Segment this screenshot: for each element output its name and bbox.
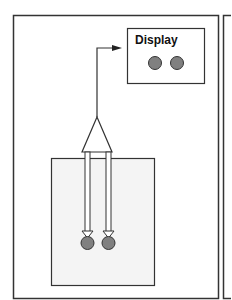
diagram-canvas: Display: [0, 0, 231, 300]
adjacent-frame: [224, 16, 232, 299]
probe-dot: [102, 237, 115, 250]
probe-dot: [81, 237, 94, 250]
display-indicator-dot: [149, 57, 162, 70]
arrowhead-icon: [112, 45, 122, 51]
signal-arrow: [97, 45, 122, 117]
display-label: Display: [135, 33, 178, 47]
probe-shaft: [106, 152, 111, 232]
signal-line: [97, 48, 114, 117]
sample-box: [52, 159, 155, 286]
display-panel: Display: [128, 29, 205, 84]
display-indicator-dot: [171, 57, 184, 70]
probe-shaft: [85, 152, 90, 232]
amplifier-triangle: [82, 117, 112, 152]
